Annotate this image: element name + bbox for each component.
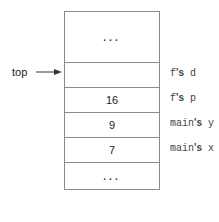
var-name: d (190, 68, 196, 79)
stack-frame-ellipsis-top: ... (65, 12, 159, 62)
slot-value: 16 (106, 94, 118, 106)
call-stack: ... 16 9 7 ... (64, 11, 160, 190)
possessive: 's (176, 67, 184, 78)
stack-slot-main-y: 9 (65, 112, 159, 137)
annotation-f-d: f's d (170, 67, 196, 79)
stack-slot-main-x: 7 (65, 137, 159, 162)
annotation-f-p: f's p (170, 92, 196, 104)
arrow-right-icon (36, 68, 62, 76)
annotation-main-y: main's y (170, 117, 214, 129)
stack-slot-f-p: 16 (65, 87, 159, 112)
annotation-main-x: main's x (170, 142, 214, 154)
var-name: x (208, 143, 214, 154)
stack-frame-ellipsis-bottom: ... (65, 162, 159, 190)
slot-value: 9 (109, 119, 115, 131)
stack-slot-f-d (65, 62, 159, 87)
ellipsis-text: ... (103, 32, 120, 43)
possessive: 's (194, 142, 202, 153)
top-pointer-label: top (12, 66, 27, 78)
slot-value: 7 (109, 144, 115, 156)
possessive: 's (176, 92, 184, 103)
possessive: 's (194, 117, 202, 128)
owner-name: main (170, 143, 194, 154)
ellipsis-text: ... (103, 171, 120, 182)
owner-name: main (170, 118, 194, 129)
var-name: y (208, 118, 214, 129)
var-name: p (190, 93, 196, 104)
